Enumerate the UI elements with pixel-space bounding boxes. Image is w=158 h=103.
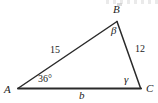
vertex-label-b: B: [113, 4, 120, 15]
angle-label-c: γ: [124, 74, 128, 85]
vertex-label-c: C: [146, 83, 153, 94]
side-label-ac: b: [79, 90, 85, 101]
vertex-label-a: A: [4, 84, 11, 95]
angle-label-b: β: [111, 25, 116, 36]
side-label-bc: 12: [135, 44, 145, 54]
side-ab-line: [19, 22, 118, 89]
triangle-diagram: A B C 15 12 b 36° β γ: [0, 0, 158, 103]
side-bc-line: [117, 22, 141, 89]
angle-label-a: 36°: [38, 74, 52, 84]
side-label-ab: 15: [50, 45, 60, 55]
